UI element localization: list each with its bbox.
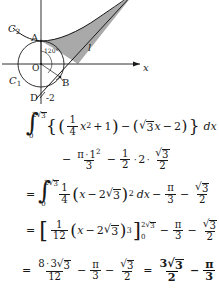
label-point-a: A [31,33,38,43]
label-curve-c2: C2 [8,24,20,35]
close-paren: ) [122,186,129,203]
fraction-sqrt3-over-2: √3 2 [153,148,171,172]
multiply-dot-2: · [147,155,150,164]
answer-fraction-pi-over-3: π 3 [203,259,215,284]
minus-operator-2: − [160,225,169,236]
math-line-5: = 8·3√3 12 − π 3 − √3 2 = 3√3 2 − π [22,258,217,284]
minus-operator: − [62,154,71,165]
exponent-3: 3 [127,227,132,235]
close-square-bracket: ] [133,221,141,240]
integral-lower-limit: 0 [41,201,45,208]
fraction-numerator: √3 [193,182,211,194]
integral-symbol-2: ∫ 2√3 0 [38,182,47,206]
fraction-numerator: √3 [201,219,219,231]
fraction-8x3sqrt3-over-12: 8·3√3 12 [36,259,73,283]
integral-upper-limit: 2√3 [32,111,47,120]
equals-sign-2: = [143,265,152,276]
integral-symbol-1: ∫ 2√3 0 [26,114,35,138]
coefficient-two: 2 [99,189,106,200]
close-paren: ) [112,118,119,135]
multiply-dot-1: · [134,155,137,164]
eval-upper-limit: 2√3 [141,221,156,230]
variable-x-2: x [154,121,160,132]
sqrt-3-icon: √3 [106,188,121,201]
open-paren: ( [58,118,65,135]
term-one: 1 [104,121,111,132]
eval-lower-limit: 0 [141,234,156,241]
answer-minus-operator: − [190,265,199,276]
minus-operator: − [86,225,95,236]
factor-two: 2 [138,154,145,165]
fraction-sqrt3-over-2: √3 2 [201,219,219,243]
fraction-numerator: √3 [118,259,136,271]
plus-operator: + [93,121,102,132]
differential-dx: dx [204,121,217,132]
math-line-2: − π·12 3 − 1 2 · 2 · √3 2 [60,148,174,172]
fraction-numerator: 8·3√3 [36,259,73,271]
term-two: 2 [174,121,181,132]
open-paren: ( [72,186,79,203]
evaluation-limits: 2√3 0 [141,221,156,241]
sqrt-3-icon: √3 [195,182,209,194]
sqrt-3-icon: √3 [139,120,154,133]
label-y-intercept: -2 [46,94,55,103]
fraction-numerator: π·12 [75,148,102,160]
coefficient-two: 2 [97,225,104,236]
differential-dx: dx [137,189,150,200]
minus-operator: − [77,265,86,276]
minus-operator-2: − [163,121,172,132]
open-brace: { [46,118,57,135]
worksheet-page: C2 C1 A B D -2 O x l 120° ∫ 2√3 0 { ( 1 … [0,0,219,301]
label-point-b: B [62,78,69,88]
sqrt-3-icon: √3 [49,179,59,188]
sqrt-3-icon: √3 [120,259,134,271]
fraction-pi-over-3: π·12 3 [75,148,102,172]
label-origin: O [32,64,39,73]
label-point-d: D [30,93,38,103]
math-line-1: ∫ 2√3 0 { ( 1 4 x2 + 1 ) − ( √3x − 2 ) }… [26,114,217,138]
geometry-figure: C2 C1 A B D -2 O x l 120° [0,0,219,108]
label-angle-120: 120° [44,48,58,54]
minus-operator-2: − [152,189,161,200]
fraction-one-quarter: 1 4 [59,183,69,205]
sqrt-3-icon: √3 [36,111,46,120]
fraction-pi-over-3: π 3 [165,183,176,205]
fraction-numerator: √3 [153,148,171,160]
equals-sign: = [22,265,31,276]
sqrt-3-icon: √3 [104,224,119,237]
minus-operator-3: − [180,189,189,200]
fraction-sqrt3-over-2: √3 2 [193,182,211,206]
variable-x: x [77,225,83,236]
point-b-dot [59,76,62,79]
fraction-pi-over-3: π 3 [90,260,101,282]
minus-operator-3: − [188,225,197,236]
point-o-dot [40,63,42,65]
fraction-one-half: 1 2 [120,149,130,171]
evaluation-bracket: ] 2√3 0 [133,221,156,241]
minus-operator: − [88,189,97,200]
close-paren-2: ) [181,119,187,134]
equals-sign: = [26,189,35,200]
sqrt-3-icon: √3 [203,219,217,231]
point-a-dot [40,40,43,43]
close-brace: } [189,118,200,135]
open-paren-2: ( [133,119,139,134]
minus-operator: − [121,121,130,132]
fraction-one-twelfth: 1 12 [51,220,68,242]
fraction-pi-over-3: π 3 [173,220,184,242]
sqrt-3-icon: √3 [155,148,169,160]
integral-lower-limit: 0 [29,133,33,140]
label-axis-x: x [143,63,149,73]
exponent-2: 2 [86,122,91,130]
answer-fraction-3sqrt3-over-2: 3√3 2 [158,258,186,284]
angle-arc-120 [41,51,52,73]
close-paren: ) [120,222,127,239]
minus-operator-2: − [105,265,114,276]
exponent-2: 2 [129,190,134,198]
minus-operator-2: − [107,154,116,165]
x-axis-arrowhead [133,62,140,67]
open-paren: ( [70,222,77,239]
sqrt-3-icon: √3 [57,259,71,271]
variable-x: x [79,189,85,200]
math-line-3: = ∫ 2√3 0 1 4 ( x − 2√3 )2 dx − π 3 − √ [26,182,213,206]
